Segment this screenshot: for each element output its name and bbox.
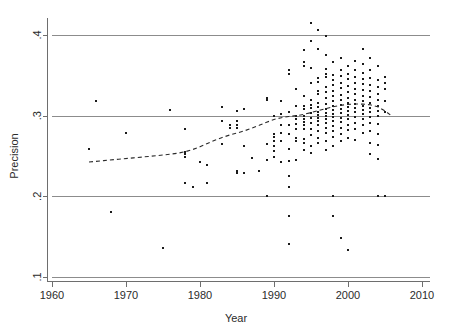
data-point	[369, 57, 371, 59]
data-point	[295, 137, 297, 139]
data-point	[340, 75, 342, 77]
y-tick-labels-group: .1.2.3.4	[31, 30, 43, 281]
data-point	[384, 195, 386, 197]
data-point	[317, 93, 319, 95]
data-point	[236, 110, 238, 112]
data-point	[347, 129, 349, 131]
data-point	[332, 95, 334, 97]
data-point	[347, 97, 349, 99]
data-point	[325, 76, 327, 78]
data-point	[303, 65, 305, 67]
data-point	[362, 124, 364, 126]
data-point	[310, 134, 312, 136]
data-point	[236, 170, 238, 172]
data-point	[310, 67, 312, 69]
data-point	[332, 61, 334, 63]
data-point	[258, 170, 260, 172]
data-point	[332, 79, 334, 81]
data-point	[369, 102, 371, 104]
data-point	[354, 111, 356, 113]
data-point	[384, 76, 386, 78]
data-point	[273, 156, 275, 158]
data-point	[221, 120, 223, 122]
data-point	[384, 100, 386, 102]
data-point	[303, 115, 305, 117]
data-point	[303, 138, 305, 140]
data-point	[273, 145, 275, 147]
scatter-plot-figure: 196019701980199020002010 .1.2.3.4 Year P…	[0, 0, 451, 330]
data-point	[317, 106, 319, 108]
data-point	[221, 106, 223, 108]
data-point	[288, 69, 290, 71]
data-point	[273, 115, 275, 117]
data-point	[236, 172, 238, 174]
data-point	[310, 107, 312, 109]
x-tick-labels-group: 196019701980199020002010	[40, 289, 434, 301]
x-tick-label-2000: 2000	[336, 289, 360, 301]
data-point	[347, 137, 349, 139]
data-point	[347, 65, 349, 67]
data-point	[340, 99, 342, 101]
data-point	[354, 139, 356, 141]
x-tick-label-1970: 1970	[114, 289, 138, 301]
data-point	[325, 118, 327, 120]
data-point	[288, 124, 290, 126]
data-point	[325, 132, 327, 134]
data-point	[221, 143, 223, 145]
data-point	[354, 116, 356, 118]
data-point	[273, 136, 275, 138]
data-point	[347, 102, 349, 104]
data-point	[206, 182, 208, 184]
chart-canvas: 196019701980199020002010 .1.2.3.4 Year P…	[0, 0, 451, 330]
data-point	[347, 249, 349, 251]
data-point	[280, 113, 282, 115]
data-point	[332, 145, 334, 147]
data-point	[317, 124, 319, 126]
data-point	[310, 122, 312, 124]
data-point	[229, 127, 231, 129]
data-point	[377, 65, 379, 67]
data-point	[325, 115, 327, 117]
data-point	[110, 211, 112, 213]
data-point	[325, 73, 327, 75]
data-point	[369, 107, 371, 109]
data-point	[340, 108, 342, 110]
data-point	[384, 82, 386, 84]
data-point	[310, 40, 312, 42]
data-point	[340, 82, 342, 84]
data-point	[199, 161, 201, 163]
data-point	[340, 87, 342, 89]
x-axis-title: Year	[225, 312, 248, 324]
data-point	[377, 93, 379, 95]
data-point	[295, 140, 297, 142]
y-tick-label-1: .1	[31, 272, 43, 281]
data-point	[369, 142, 371, 144]
data-point	[310, 112, 312, 114]
data-point	[236, 124, 238, 126]
data-point	[288, 111, 290, 113]
x-tick-label-1980: 1980	[188, 289, 212, 301]
data-point	[95, 100, 97, 102]
data-point	[377, 123, 379, 125]
data-point	[310, 128, 312, 130]
data-point	[310, 117, 312, 119]
data-point	[332, 120, 334, 122]
data-point	[288, 73, 290, 75]
data-point	[332, 130, 334, 132]
data-point	[362, 100, 364, 102]
data-point	[332, 113, 334, 115]
axis-lines-group	[48, 18, 431, 282]
data-point	[362, 63, 364, 65]
data-point	[340, 57, 342, 59]
data-point	[325, 68, 327, 70]
trend-line	[89, 104, 392, 162]
data-point	[184, 156, 186, 158]
data-point	[354, 60, 356, 62]
data-point	[340, 117, 342, 119]
data-point	[280, 161, 282, 163]
data-point	[266, 195, 268, 197]
data-point	[340, 133, 342, 135]
data-point	[347, 73, 349, 75]
data-point	[340, 94, 342, 96]
data-point	[266, 159, 268, 161]
